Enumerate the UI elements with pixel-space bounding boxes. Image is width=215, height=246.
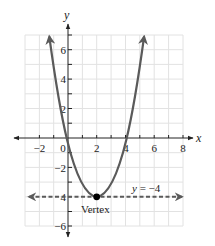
x-tick-label: 2 bbox=[94, 142, 100, 154]
line-label: y = −4 bbox=[131, 182, 161, 194]
vertex-label: Vertex bbox=[81, 203, 110, 215]
y-tick-label: 6 bbox=[61, 44, 67, 56]
x-tick-label: −2 bbox=[34, 142, 46, 154]
x-tick-label: 0 bbox=[60, 142, 66, 154]
x-tick-label: 8 bbox=[180, 142, 186, 154]
y-tick-label: −6 bbox=[54, 220, 66, 232]
x-axis-label: x bbox=[195, 131, 202, 145]
y-tick-label: −2 bbox=[54, 162, 66, 174]
y-tick-label: 4 bbox=[61, 73, 67, 85]
y-axis-label: y bbox=[63, 8, 70, 22]
vertex-point bbox=[93, 193, 100, 200]
x-tick-label: 6 bbox=[151, 142, 157, 154]
parabola-graph: −2 0 2 4 6 8 6 4 2 −2 4 −6 x y y = −4 Ve… bbox=[0, 0, 215, 246]
